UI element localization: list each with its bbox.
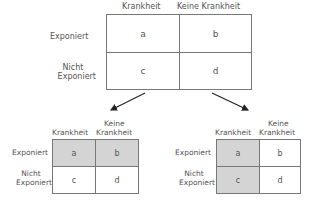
right-col-header-krankheit-2: Krankheit bbox=[259, 128, 295, 137]
left-contingency-table: a b c d bbox=[52, 139, 139, 194]
right-row-label-line1: Nicht bbox=[173, 169, 215, 178]
left-row-label-line1: Nicht bbox=[10, 169, 52, 178]
left-col-header-krankheit-2: Krankheit bbox=[96, 128, 132, 137]
right-cell-b: b bbox=[260, 140, 300, 167]
left-col-header-krankheit: Krankheit bbox=[52, 128, 88, 137]
right-cell-d: d bbox=[260, 167, 300, 193]
right-col-header-krankheit: Krankheit bbox=[215, 128, 251, 137]
left-cell-a: a bbox=[53, 140, 96, 167]
left-row-label-nicht-exponiert: Nicht Exponiert bbox=[10, 169, 52, 187]
right-cell-a: a bbox=[217, 140, 260, 167]
left-cell-b: b bbox=[96, 140, 138, 167]
left-cell-d: d bbox=[96, 167, 138, 193]
left-cell-c: c bbox=[53, 167, 96, 193]
left-row-label-exponiert: Exponiert bbox=[12, 148, 48, 157]
right-row-label-exponiert: Exponiert bbox=[175, 148, 211, 157]
right-cell-c: c bbox=[217, 167, 260, 193]
right-col-header-keine: Keine bbox=[268, 119, 289, 128]
right-contingency-table: a b c d bbox=[216, 139, 301, 194]
right-row-label-nicht-exponiert: Nicht Exponiert bbox=[173, 169, 215, 187]
left-row-label-line2: Exponiert bbox=[10, 178, 52, 187]
right-row-label-line2: Exponiert bbox=[173, 178, 215, 187]
left-col-header-keine: Keine bbox=[104, 119, 125, 128]
